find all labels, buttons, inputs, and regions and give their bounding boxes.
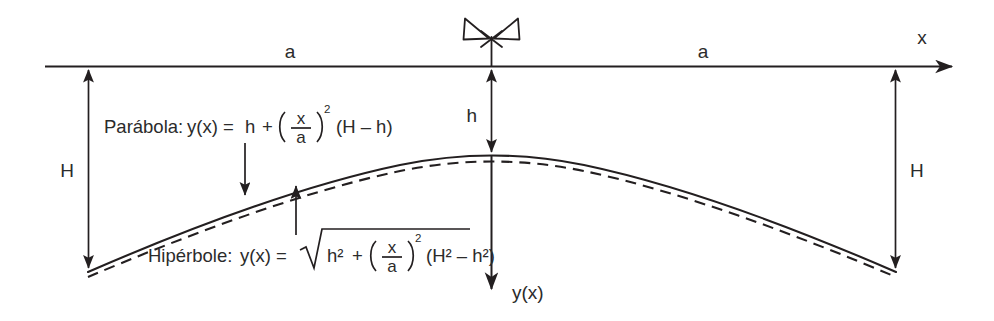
y-axis-group: y(x) [492,155,544,303]
antenna-icon [464,19,520,67]
y-axis-label: y(x) [512,282,544,303]
hyperbola-exponent: 2 [415,232,421,244]
hyperbola-frac-numerator: x [388,238,397,257]
height-center-dimension: h [466,70,491,152]
x-axis-label: x [917,27,927,48]
height-center-label: h [466,105,477,126]
parabola-annotation: Parábola: y(x) = h + x a 2 (H – h) [104,103,393,195]
antenna-coverage-diagram: x a a y(x) [0,0,994,321]
hyperbola-paren-close-icon [408,241,413,271]
hyperbola-annotation: Hipérbole: y(x) = h² + x a 2 (H² – h²) [148,186,495,276]
parabola-last-term: (H – h) [336,116,393,137]
parabola-frac-numerator: x [297,109,306,128]
hyperbola-plus: + [352,245,363,266]
height-right-label: H [910,160,924,181]
hyperbola-label: Hipérbole: [148,245,232,266]
parabola-plus: + [262,116,273,137]
parabola-paren-open-icon [280,112,285,142]
parabola-lhs: y(x) = [187,116,234,137]
height-left-label: H [60,160,74,181]
hyperbola-last-term: (H² – h²) [426,245,495,266]
parabola-exponent: 2 [324,103,330,115]
height-left-dimension: H [60,70,88,268]
span-labels-group: a a [285,41,709,62]
span-left-label: a [285,41,296,62]
height-right-dimension: H [896,70,924,268]
span-right-label: a [698,41,709,62]
parabola-label: Parábola: [104,116,183,137]
hyperbola-first-term: h² [327,245,343,266]
hyperbola-lhs: y(x) = [240,245,287,266]
antenna-element-left [464,19,490,40]
antenna-element-right [494,19,520,40]
parabola-first-term: h [245,116,255,137]
parabola-frac-denominator: a [296,128,306,147]
parabola-paren-close-icon [317,112,322,142]
hyperbola-frac-denominator: a [387,257,397,276]
diagram-root: x a a y(x) [0,0,994,321]
hyperbola-paren-open-icon [371,241,376,271]
